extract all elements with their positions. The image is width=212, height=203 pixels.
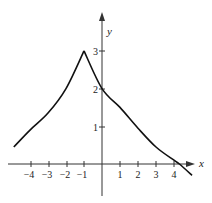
x-tick-labels: −4 −3 −2 −1 1 2 3 4: [24, 169, 177, 180]
y-tick-label: 3: [93, 46, 98, 57]
y-axis-arrow-icon: [99, 12, 105, 21]
x-tick-label: 2: [136, 169, 141, 180]
function-curve: [14, 51, 192, 175]
x-tick-label: −3: [42, 169, 53, 180]
y-tick-labels: 1 2 3: [93, 46, 98, 133]
y-axis: y: [99, 12, 112, 196]
y-tick-label: 2: [93, 84, 98, 95]
x-tick-label: 3: [154, 169, 159, 180]
y-tick-label: 1: [93, 122, 98, 133]
x-tick-label: −4: [24, 169, 35, 180]
x-axis: x: [8, 157, 204, 169]
x-tick-label: 4: [172, 169, 177, 180]
y-axis-label: y: [106, 25, 112, 37]
x-axis-arrow-icon: [186, 161, 195, 167]
function-graph: x y −4 −3 −2 −1 1 2 3 4 1 2 3: [0, 0, 212, 203]
x-axis-label: x: [198, 157, 204, 169]
x-tick-label: −1: [77, 169, 88, 180]
x-tick-label: 1: [118, 169, 123, 180]
x-tick-label: −2: [60, 169, 71, 180]
